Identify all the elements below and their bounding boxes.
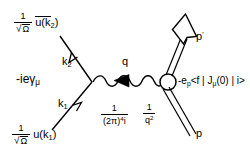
incoming-spinor-base: u(k bbox=[33, 128, 48, 140]
momentum-label-k1: k1 bbox=[58, 98, 68, 111]
virtual-photon-wavy-line bbox=[93, 75, 162, 88]
spinor-u-bar-glyph: u(k bbox=[35, 17, 50, 28]
incoming-electron-spinor: u(k1) bbox=[33, 129, 56, 142]
hadronic-bracket-open: <f | J bbox=[191, 75, 213, 86]
outgoing-spinor-base: u(k bbox=[35, 16, 50, 28]
outgoing-electron-fraction: 1 √Ω bbox=[14, 12, 32, 34]
outgoing-fraction-numerator: 1 bbox=[19, 12, 28, 22]
hadronic-prefix: -e bbox=[178, 75, 187, 86]
outgoing-electron-spinor: u(k2) bbox=[35, 17, 58, 30]
momentum-label-p-prime: p' bbox=[196, 31, 204, 42]
incoming-spinor-close: ) bbox=[53, 128, 57, 140]
momentum-label-p: p bbox=[196, 128, 202, 139]
p-prime-mark: ' bbox=[202, 30, 203, 39]
q-base: q bbox=[122, 55, 128, 67]
incoming-fraction-numerator: 1 bbox=[17, 124, 26, 134]
vertex-factor-subscript: μ bbox=[35, 78, 40, 87]
loop-measure-fraction: 1 (2π)4i bbox=[101, 104, 128, 126]
incoming-fraction-omega: Ω bbox=[20, 136, 29, 146]
hadronic-current-matrix-element: -ep<f | Jμ(0) | i> bbox=[178, 76, 245, 88]
loop-measure-denominator: (2π)4i bbox=[101, 115, 128, 126]
k1-subscript: 1 bbox=[64, 102, 68, 111]
outgoing-fraction-omega: Ω bbox=[22, 24, 31, 34]
photon-propagator-fraction: 1 q2 bbox=[143, 103, 155, 125]
loop-measure-base: (2π) bbox=[103, 116, 120, 126]
loop-measure-i: i bbox=[124, 116, 126, 126]
outgoing-fraction-denominator: √Ω bbox=[14, 23, 32, 34]
outgoing-electron-normalization-group: 1 √Ω u(k2) bbox=[14, 12, 58, 34]
incoming-electron-normalization-group: 1 √Ω u(k1) bbox=[12, 124, 56, 146]
incoming-hadron-double-line bbox=[163, 87, 196, 136]
momentum-label-q: q bbox=[122, 56, 128, 67]
p-base: p bbox=[196, 127, 202, 139]
incoming-electron-fraction: 1 √Ω bbox=[12, 124, 30, 146]
propagator-numerator: 1 bbox=[145, 103, 154, 113]
hadron-vertex-circle bbox=[160, 74, 176, 90]
vertex-factor-prefix: -ieγ bbox=[16, 72, 35, 86]
hadronic-bracket-close: (0) | i> bbox=[216, 75, 244, 86]
propagator-denominator: q2 bbox=[143, 114, 155, 125]
feynman-diagram-figure: 1 √Ω u(k2) k2 -ieγμ k1 1 √Ω u(k1) bbox=[0, 0, 250, 159]
outgoing-spinor-close: ) bbox=[55, 16, 59, 28]
outgoing-hadron-double-line bbox=[166, 14, 197, 76]
k2-subscript: 2 bbox=[68, 60, 72, 69]
momentum-label-k2: k2 bbox=[62, 56, 72, 69]
loop-measure-numerator: 1 bbox=[110, 104, 119, 114]
incoming-fraction-denominator: √Ω bbox=[12, 135, 30, 146]
propagator-exponent: 2 bbox=[150, 114, 153, 121]
lepton-vertex-factor-label: -ieγμ bbox=[16, 73, 40, 87]
